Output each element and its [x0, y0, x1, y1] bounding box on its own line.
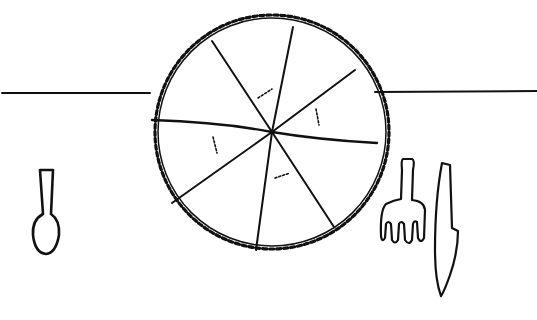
pie-icon	[152, 15, 389, 250]
fork-icon	[381, 159, 425, 243]
knife-icon	[435, 163, 458, 296]
spoon-icon	[33, 170, 59, 254]
drawing	[0, 0, 537, 320]
